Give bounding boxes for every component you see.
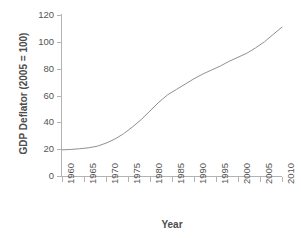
x-tick-mark: [216, 177, 217, 182]
x-tick-mark: [62, 177, 63, 182]
y-tick-label: 0: [6, 171, 54, 181]
x-tick-mark: [238, 177, 239, 182]
x-tick-mark: [128, 177, 129, 182]
y-tick-label: 80: [6, 64, 54, 74]
y-tick-label: 100: [6, 37, 54, 47]
plot-area: [62, 15, 282, 176]
x-tick-mark: [260, 177, 261, 182]
y-axis-tick-labels: 020406080100120: [0, 0, 54, 238]
x-tick-mark: [282, 177, 283, 182]
x-tick-mark: [172, 177, 173, 182]
x-tick-label: 2010: [286, 163, 296, 184]
x-tick-mark: [150, 177, 151, 182]
chart-figure: GDP Deflator (2005 = 100) 02040608010012…: [0, 0, 301, 238]
x-tick-mark: [84, 177, 85, 182]
y-tick-label: 40: [6, 117, 54, 127]
x-tick-mark: [194, 177, 195, 182]
series-line-gdp-deflator: [62, 27, 282, 150]
x-axis-title: Year: [62, 219, 282, 230]
y-tick-label: 120: [6, 10, 54, 20]
y-tick-label: 20: [6, 144, 54, 154]
data-line-svg: [62, 15, 282, 176]
y-tick-label: 60: [6, 91, 54, 101]
x-tick-mark: [106, 177, 107, 182]
